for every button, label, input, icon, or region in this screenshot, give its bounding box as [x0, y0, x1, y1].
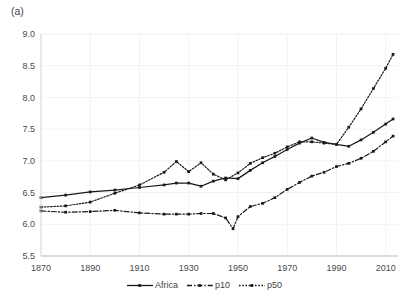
data-point-marker — [392, 118, 395, 121]
data-point-marker — [392, 53, 395, 56]
data-point-marker — [237, 177, 240, 180]
legend-line-sample — [187, 281, 213, 290]
data-point-marker — [64, 205, 67, 208]
chart-figure: (a) 5.56.06.57.07.58.08.59.0187018901910… — [0, 0, 409, 301]
legend-item-label: Africa — [155, 281, 178, 290]
data-point-marker — [335, 143, 338, 146]
data-point-marker — [261, 161, 264, 164]
data-point-marker — [392, 135, 395, 138]
data-point-marker — [114, 189, 117, 192]
data-point-marker — [249, 162, 252, 165]
chart-legend: Africap10p50 — [0, 281, 409, 290]
y-axis-tick-label: 5.5 — [22, 251, 35, 261]
x-axis-tick-label: 1970 — [277, 263, 297, 273]
data-point-marker — [175, 182, 178, 185]
data-point-marker — [372, 131, 375, 134]
legend-item-p10[interactable]: p10 — [187, 281, 230, 290]
data-point-marker — [175, 213, 178, 216]
data-point-marker — [212, 180, 215, 183]
data-point-marker — [384, 67, 387, 70]
data-point-marker — [360, 139, 363, 142]
data-point-marker — [64, 194, 67, 197]
data-point-marker — [323, 171, 326, 174]
legend-item-label: p10 — [215, 281, 230, 290]
legend-item-label: p50 — [267, 281, 282, 290]
data-point-marker — [310, 137, 313, 140]
data-point-marker — [286, 146, 289, 149]
data-point-marker — [384, 140, 387, 143]
data-point-marker — [64, 211, 67, 214]
data-point-marker — [187, 170, 190, 173]
data-point-marker — [89, 210, 92, 213]
data-point-marker — [138, 184, 141, 187]
data-point-marker — [360, 108, 363, 111]
series-line-africa — [41, 119, 393, 198]
data-point-marker — [89, 201, 92, 204]
data-point-marker — [372, 87, 375, 90]
y-axis-tick-label: 9.0 — [22, 29, 35, 39]
data-point-marker — [249, 169, 252, 172]
data-point-marker — [274, 152, 277, 155]
x-axis-tick-label: 1930 — [179, 263, 199, 273]
data-point-marker — [200, 212, 203, 215]
x-axis-tick-label: 1950 — [228, 263, 248, 273]
x-axis-tick-label: 1910 — [129, 263, 149, 273]
legend-item-p50[interactable]: p50 — [239, 281, 282, 290]
data-point-marker — [261, 156, 264, 159]
y-axis-tick-label: 7.0 — [22, 156, 35, 166]
data-point-marker — [138, 212, 141, 215]
data-point-marker — [224, 217, 227, 220]
data-point-marker — [232, 227, 235, 230]
x-axis-tick-label: 1890 — [80, 263, 100, 273]
legend-line-sample — [239, 281, 265, 290]
y-axis-tick-label: 8.0 — [22, 93, 35, 103]
data-point-marker — [310, 175, 313, 178]
data-point-marker — [347, 126, 350, 129]
data-point-marker — [89, 191, 92, 194]
data-point-marker — [286, 188, 289, 191]
data-point-marker — [163, 171, 166, 174]
data-point-marker — [200, 185, 203, 188]
data-point-marker — [163, 213, 166, 216]
data-point-marker — [286, 148, 289, 151]
data-point-marker — [298, 181, 301, 184]
data-point-marker — [163, 184, 166, 187]
data-point-marker — [237, 172, 240, 175]
y-axis-tick-label: 7.5 — [22, 124, 35, 134]
data-point-marker — [224, 179, 227, 182]
data-point-marker — [347, 145, 350, 148]
data-point-marker — [384, 123, 387, 126]
data-point-marker — [323, 142, 326, 145]
data-point-marker — [187, 182, 190, 185]
legend-item-africa[interactable]: Africa — [127, 281, 178, 290]
data-point-marker — [187, 213, 190, 216]
data-point-marker — [261, 202, 264, 205]
data-point-marker — [212, 212, 215, 215]
series-line-p50 — [41, 54, 393, 207]
data-point-marker — [212, 173, 215, 176]
data-point-marker — [114, 209, 117, 212]
data-point-marker — [237, 215, 240, 218]
legend-line-sample — [127, 281, 153, 290]
data-point-marker — [347, 162, 350, 165]
data-point-marker — [138, 186, 141, 189]
line-chart-plot: 5.56.06.57.07.58.08.59.01870189019101930… — [0, 0, 409, 301]
data-point-marker — [175, 160, 178, 163]
x-axis-tick-label: 1990 — [326, 263, 346, 273]
data-point-marker — [274, 155, 277, 158]
data-point-marker — [310, 140, 313, 143]
data-point-marker — [274, 196, 277, 199]
data-point-marker — [360, 157, 363, 160]
y-axis-tick-label: 6.0 — [22, 219, 35, 229]
y-axis-tick-label: 8.5 — [22, 61, 35, 71]
y-axis-tick-label: 6.5 — [22, 188, 35, 198]
x-axis-tick-label: 1870 — [31, 263, 51, 273]
series-line-p10 — [41, 136, 393, 229]
data-point-marker — [200, 161, 203, 164]
data-point-marker — [114, 192, 117, 195]
data-point-marker — [249, 205, 252, 208]
data-point-marker — [335, 165, 338, 168]
data-point-marker — [372, 150, 375, 153]
x-axis-tick-label: 2010 — [376, 263, 396, 273]
data-point-marker — [298, 140, 301, 143]
